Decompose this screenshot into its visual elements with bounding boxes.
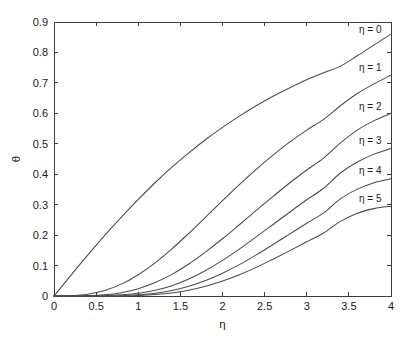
y-tick-label: 0.6	[33, 107, 48, 119]
curve-label-5: η = 5	[359, 193, 382, 204]
curve-label-4: η = 4	[359, 165, 382, 176]
x-tick-label: 0	[51, 300, 57, 312]
y-tick-label: 0.1	[33, 260, 48, 272]
x-tick-label: 3	[304, 300, 310, 312]
y-tick-label: 0.8	[33, 46, 48, 58]
curve-label-2: η = 2	[359, 101, 382, 112]
x-tick-label: 2	[219, 300, 225, 312]
figure-background	[0, 0, 415, 341]
x-tick-label: 1.5	[173, 300, 188, 312]
x-tick-label: 2.5	[257, 300, 272, 312]
y-tick-label: 0.9	[33, 16, 48, 28]
y-tick-label: 0.2	[33, 229, 48, 241]
y-tick-label: 0.3	[33, 199, 48, 211]
x-tick-label: 1	[135, 300, 141, 312]
chart-figure: 00.511.522.533.54 00.10.20.30.40.50.60.7…	[0, 0, 415, 341]
plot-canvas: 00.511.522.533.54 00.10.20.30.40.50.60.7…	[0, 0, 415, 341]
curve-label-1: η = 1	[359, 62, 382, 73]
curve-label-0: η = 0	[359, 24, 382, 35]
x-axis-tick-labels: 00.511.522.533.54	[51, 300, 394, 312]
x-tick-label: 4	[388, 300, 394, 312]
x-tick-label: 0.5	[88, 300, 103, 312]
curve-label-3: η = 3	[359, 135, 382, 146]
x-axis-title: η	[219, 318, 225, 330]
x-tick-label: 3.5	[341, 300, 356, 312]
y-tick-label: 0	[42, 290, 48, 302]
y-axis-title: θ	[10, 156, 22, 162]
y-tick-label: 0.4	[33, 168, 48, 180]
y-tick-label: 0.5	[33, 138, 48, 150]
y-tick-label: 0.7	[33, 77, 48, 89]
